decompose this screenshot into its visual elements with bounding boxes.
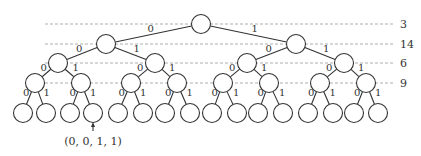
edge-label-zero: 0 — [76, 43, 82, 54]
leaf-node — [181, 104, 200, 123]
leaf-node — [84, 104, 103, 123]
leaf-node — [156, 104, 175, 123]
edge-label-one: 1 — [252, 23, 258, 34]
level-count-1: 14 — [400, 38, 414, 51]
binary-tree-diagram: 010101010101010101010101010101 3 14 6 9 … — [0, 0, 421, 156]
leaf-node — [134, 104, 153, 123]
edge-label-one: 1 — [279, 87, 285, 98]
edge-label-one: 1 — [44, 87, 50, 98]
tree-edge — [135, 92, 140, 104]
tree-node — [260, 74, 279, 93]
edge-label-one: 1 — [233, 87, 239, 98]
edge-label-zero: 0 — [229, 62, 235, 73]
leaf-node — [274, 104, 293, 123]
leaf-node — [61, 104, 80, 123]
tree-node — [335, 54, 354, 73]
leaf-node — [37, 104, 56, 123]
tree-edge — [181, 92, 186, 105]
leaf-node — [14, 104, 33, 123]
leaf-node — [203, 104, 222, 123]
leaf-node — [109, 104, 128, 123]
tree-edge — [210, 26, 286, 42]
edge-label-zero: 0 — [148, 23, 154, 34]
tree-node — [146, 54, 165, 73]
edge-label-one: 1 — [358, 62, 364, 73]
edge-label-one: 1 — [73, 62, 79, 73]
tree-node — [26, 74, 45, 93]
edge-label-zero: 0 — [266, 43, 272, 54]
tree-node — [72, 74, 91, 93]
edge-label-one: 1 — [140, 87, 146, 98]
level-count-0: 3 — [400, 18, 407, 31]
leaf-node — [228, 104, 247, 123]
tree-edge — [370, 92, 375, 104]
level-counts: 3 14 6 9 — [400, 18, 414, 90]
tree-node — [97, 35, 116, 54]
tree-node — [311, 74, 330, 93]
tree-node — [287, 35, 306, 54]
tree-edge — [85, 92, 90, 104]
tree-edge — [305, 47, 335, 59]
edge-label-one: 1 — [169, 62, 175, 73]
leaf-node — [324, 104, 343, 123]
level-count-2: 6 — [400, 57, 407, 70]
tree-node — [357, 74, 376, 93]
tree-node — [214, 74, 233, 93]
leaf-tuple-label: (0, 0, 1, 1) — [64, 135, 122, 148]
edge-label-zero: 0 — [137, 62, 143, 73]
tree-node — [168, 74, 187, 93]
edge-label-one: 1 — [375, 87, 381, 98]
edge-label-zero: 0 — [41, 62, 47, 73]
edge-label-one: 1 — [134, 43, 140, 54]
edge-label-one: 1 — [261, 62, 267, 73]
edge-label-one: 1 — [90, 87, 96, 98]
leaf-annotation: (0, 0, 1, 1) — [64, 122, 122, 148]
tree-edge — [115, 47, 146, 59]
leaf-node — [299, 104, 318, 123]
edge-label-one: 1 — [330, 87, 336, 98]
tree-node — [192, 15, 211, 34]
tree-edge — [324, 92, 329, 105]
leaf-node — [345, 104, 364, 123]
edge-label-one: 1 — [187, 87, 193, 98]
leaf-node — [369, 104, 388, 123]
edge-label-zero: 0 — [326, 62, 332, 73]
tree-node — [122, 74, 141, 93]
edge-label-one: 1 — [323, 43, 329, 54]
tree-node — [49, 54, 68, 73]
tree-node — [238, 54, 257, 73]
leaf-node — [249, 104, 268, 123]
tree-edge — [38, 92, 42, 104]
level-count-3: 9 — [400, 77, 407, 90]
